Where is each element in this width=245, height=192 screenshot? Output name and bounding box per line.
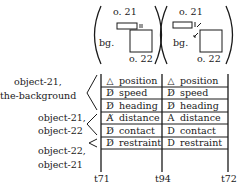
symbol-d-slash: D̸ [104, 101, 116, 111]
col1-row-distance: A̸ distance [104, 113, 160, 123]
bracket-group3 [89, 139, 97, 147]
group3-line2: object-21 [38, 160, 83, 170]
symbol-d-slash: D̸ [104, 138, 116, 148]
scene2-object21-rect [173, 22, 192, 28]
col2-row-distance: A distance [165, 113, 221, 123]
triangle-icon: △ [104, 76, 116, 86]
symbol-a: A [165, 113, 177, 123]
scene1-object22-square [130, 30, 152, 52]
scene2-object22-square [200, 30, 222, 52]
col1-row-restraint: D̸ restraint [104, 138, 161, 148]
group1-line2: the-background [0, 91, 76, 101]
bracket-group1 [87, 75, 97, 110]
group3-line1: object-22, [38, 146, 86, 156]
scene2-right-paren [226, 6, 233, 64]
col2-row-position: △ position [165, 76, 218, 86]
group2-line1: object-21, [38, 113, 86, 123]
symbol-d-slash: D̸ [165, 88, 177, 98]
symbol-d-slash: D̸ [165, 101, 177, 111]
scene1-top-label: o. 21 [113, 7, 137, 17]
symbol-a-slash: A̸ [104, 113, 116, 123]
scene1-left-paren [95, 6, 102, 64]
col1-row-contact: D̸ contact [104, 126, 155, 136]
scene2-bottom-label: o. 22 [197, 54, 221, 64]
col2-row-contact: D contact [165, 126, 216, 136]
symbol-d: D [165, 138, 177, 148]
col2-row-heading: D̸ heading [165, 101, 219, 111]
time-label-t72: t72 [221, 174, 237, 184]
group2-line2: object-22 [38, 126, 83, 136]
group1-line1: object-21, [14, 77, 62, 87]
time-label-t71: t71 [94, 174, 110, 184]
col2-row-restraint: D restraint [165, 138, 222, 148]
scene1-object21-rect [117, 23, 137, 29]
bracket-group2 [87, 114, 97, 135]
col1-row-position: △ position [104, 76, 157, 86]
scene2-left-label: bg. [173, 38, 188, 48]
time-label-t94: t94 [155, 174, 171, 184]
symbol-d-slash: D̸ [104, 126, 116, 136]
symbol-d-slash: D̸ [104, 88, 116, 98]
scene1-bottom-label: o. 22 [129, 54, 153, 64]
scene1-left-label: bg. [99, 38, 114, 48]
scene2-top-label: o. 21 [179, 7, 203, 17]
col1-row-speed: D̸ speed [104, 88, 147, 98]
col1-row-heading: D̸ heading [104, 101, 158, 111]
triangle-icon: △ [165, 76, 177, 86]
col2-row-speed: D̸ speed [165, 88, 208, 98]
symbol-d: D [165, 126, 177, 136]
